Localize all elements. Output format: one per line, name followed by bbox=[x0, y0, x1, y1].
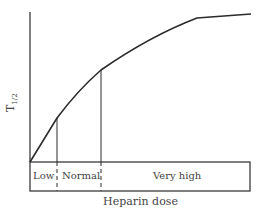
chart-canvas bbox=[0, 0, 261, 217]
region-label-normal: Normal bbox=[62, 170, 100, 181]
region-label-low: Low bbox=[33, 170, 54, 181]
y-axis-label: T1/2 bbox=[4, 93, 19, 112]
x-axis-label: Heparin dose bbox=[0, 195, 261, 208]
region-label-very-high: Very high bbox=[153, 170, 201, 181]
t-half-curve bbox=[30, 14, 251, 162]
